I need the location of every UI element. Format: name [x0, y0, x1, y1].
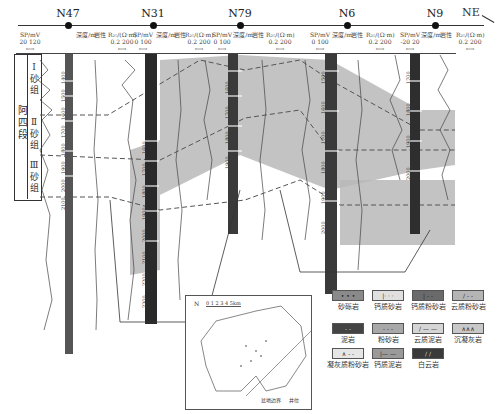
legend-item: / - -云质粉砂岩: [445, 290, 491, 311]
sp-curve-N47: [38, 60, 52, 330]
depth-label: 1700: [60, 125, 66, 138]
lithology-swatch-icon: • • •: [332, 290, 364, 301]
depth-label: 1800: [141, 185, 147, 198]
map-legend-well: 井位: [289, 396, 299, 403]
lithology-swatch-icon: |— —: [372, 348, 404, 359]
depth-label: 1800: [320, 161, 326, 174]
depth-label: 2000: [60, 179, 66, 192]
sand-body-fill: [340, 180, 455, 245]
lithology-swatch-icon: - - -: [372, 323, 404, 334]
depth-label: 2000: [141, 229, 147, 242]
basin-outline: [186, 296, 311, 409]
depth-label: 1600: [141, 141, 147, 154]
legend-label: 沉凝灰岩: [445, 336, 491, 344]
depth-label: 1700: [141, 163, 147, 176]
lithology-swatch-icon: / — —: [412, 323, 444, 334]
inset-map: N 0 1 2 3 4 5km 盆地边界 井位: [185, 295, 312, 410]
lithology-swatch-icon: |· · ·: [372, 290, 404, 301]
lithology-swatch-icon: / /: [412, 348, 444, 359]
lithology-swatch-icon: ∧∧∧: [452, 323, 484, 334]
depth-label: 2100: [141, 251, 147, 264]
depth-label: 1700: [320, 131, 326, 144]
lithology-swatch-icon: ∧ - -: [332, 348, 364, 359]
depth-label: 1900: [224, 156, 230, 169]
well-column-N47: [65, 54, 73, 354]
lithology-swatch-icon: | - -: [412, 290, 444, 301]
legend-label: 云质粉砂岩: [445, 303, 491, 311]
depth-label: 1800: [60, 143, 66, 156]
depth-label: 2300: [141, 295, 147, 308]
depth-label: 1800: [405, 103, 411, 116]
scale-bar: 0 1 2 3 4 5km: [206, 300, 241, 307]
depth-label: 1700: [224, 106, 230, 119]
depth-label: 2200: [141, 273, 147, 286]
depth-label: 1400: [60, 71, 66, 84]
map-legend-basin: 盆地边界: [261, 396, 281, 403]
depth-label: 2100: [60, 197, 66, 210]
legend-item: / /白云岩: [405, 348, 451, 369]
depth-label: 1700: [405, 71, 411, 84]
depth-label: 1600: [320, 101, 326, 114]
depth-label: 1900: [320, 191, 326, 204]
depth-label: 1900: [141, 207, 147, 220]
depth-label: 1800: [224, 131, 230, 144]
lithology-swatch-icon: - -: [332, 323, 364, 334]
depth-label: 1500: [60, 89, 66, 102]
lithology-swatch-icon: / - -: [452, 290, 484, 301]
legend-item: ∧∧∧沉凝灰岩: [445, 323, 491, 344]
north-arrow-icon: N: [194, 300, 199, 307]
legend-label: 白云岩: [405, 361, 451, 369]
depth-label: 1600: [224, 81, 230, 94]
depth-label: 1900: [60, 161, 66, 174]
depth-label: 1600: [60, 107, 66, 120]
rt-curve-N47: [94, 60, 98, 330]
depth-label: 2000: [405, 167, 411, 180]
depth-label: 1900: [405, 135, 411, 148]
well-column-N6: [325, 54, 337, 294]
depth-label: 2000: [320, 221, 326, 234]
depth-label: 1500: [320, 71, 326, 84]
